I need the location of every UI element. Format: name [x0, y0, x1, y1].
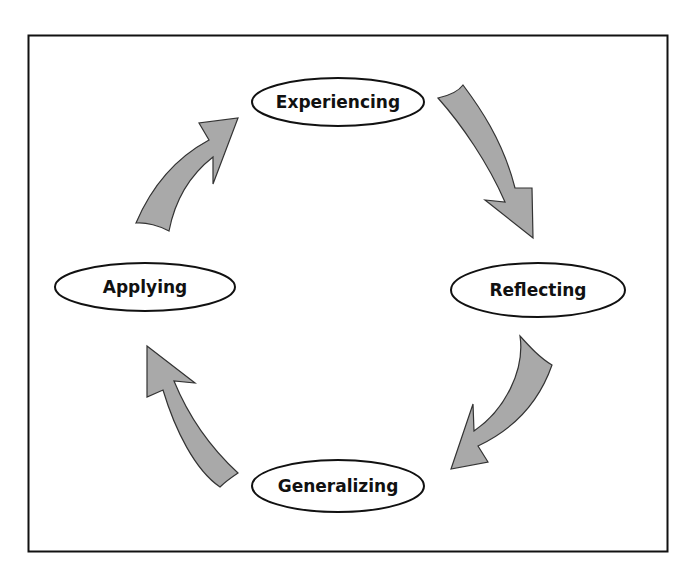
- node-experiencing-label: Experiencing: [276, 92, 400, 112]
- node-generalizing: Generalizing: [252, 460, 424, 512]
- node-generalizing-label: Generalizing: [278, 476, 399, 496]
- node-reflecting: Reflecting: [451, 263, 625, 317]
- node-experiencing: Experiencing: [252, 78, 424, 126]
- node-reflecting-label: Reflecting: [489, 280, 586, 300]
- node-applying: Applying: [55, 263, 235, 311]
- experiential-learning-cycle-diagram: Experiencing Reflecting Generalizing App…: [0, 0, 684, 572]
- node-applying-label: Applying: [103, 277, 188, 297]
